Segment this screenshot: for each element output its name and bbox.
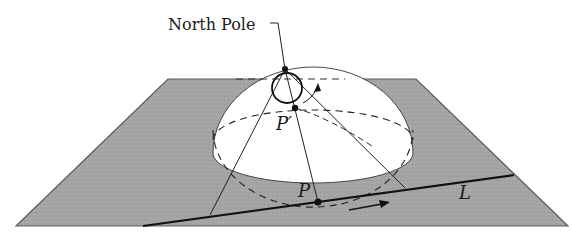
line-L-label: L bbox=[458, 182, 471, 203]
north-pole-leader bbox=[270, 23, 285, 69]
stereographic-projection-diagram: North Pole P′ P L bbox=[0, 0, 572, 238]
north-pole-label: North Pole bbox=[168, 15, 255, 34]
p-label: P bbox=[297, 180, 311, 201]
p-prime-label: P′ bbox=[275, 113, 292, 134]
p-prime-point bbox=[292, 105, 298, 111]
p-point bbox=[315, 199, 322, 206]
